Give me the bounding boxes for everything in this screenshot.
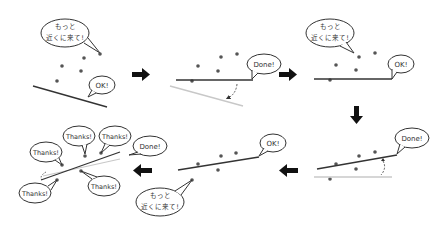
bubble-text-thanks: Thanks! xyxy=(101,133,128,141)
data-point xyxy=(219,154,223,158)
bubble-text-closer-1: もっと xyxy=(150,192,171,200)
panel-3: もっと 近くに来て! OK! xyxy=(306,19,414,82)
previous-line xyxy=(170,86,243,106)
bubble-text-done: Done! xyxy=(139,143,160,151)
previous-line xyxy=(43,159,120,176)
panel-4: Done! xyxy=(314,128,429,181)
data-point xyxy=(196,64,200,68)
diagram-canvas: もっと 近くに来て! OK! Done! もっと xyxy=(0,0,442,226)
data-point xyxy=(196,162,200,166)
arrow-left-icon xyxy=(133,164,152,177)
bubble-text-thanks: Thanks! xyxy=(65,133,92,141)
bubble-text-ok: OK! xyxy=(96,82,109,90)
bubble-text-ok: OK! xyxy=(267,140,280,148)
data-point xyxy=(82,56,86,60)
bubble-text-closer-2: 近くに来て! xyxy=(46,33,84,42)
arrow-down-icon xyxy=(350,106,363,124)
data-point xyxy=(55,79,59,83)
data-point xyxy=(357,154,361,158)
bubble-text-closer-2: 近くに来て! xyxy=(141,202,179,211)
data-point xyxy=(354,68,358,72)
arrow-right-icon xyxy=(279,68,297,81)
arrow-left-icon xyxy=(279,164,298,177)
data-point xyxy=(216,69,220,73)
arrow-right-icon xyxy=(132,68,150,81)
data-point xyxy=(354,167,358,171)
bubble-text-thanks: Thanks! xyxy=(32,149,59,157)
bubble-text-closer-1: もっと xyxy=(55,23,76,31)
data-point xyxy=(373,51,377,55)
data-point xyxy=(216,168,220,172)
bubble-text-ok: OK! xyxy=(395,61,408,69)
rotation-arrow-icon xyxy=(381,161,385,175)
data-point xyxy=(235,52,239,56)
data-point xyxy=(234,151,238,155)
bubble-text-done: Done! xyxy=(253,61,274,69)
data-point xyxy=(219,55,223,59)
data-point xyxy=(328,177,332,181)
panel-2: Done! xyxy=(170,52,281,106)
data-point xyxy=(334,63,338,67)
fit-line xyxy=(317,155,397,169)
data-point xyxy=(357,55,361,59)
rotation-arrow-icon xyxy=(228,84,237,98)
bubble-text-closer-2: 近くに来て! xyxy=(311,33,349,42)
data-point xyxy=(98,52,102,56)
panel-1: もっと 近くに来て! OK! xyxy=(33,19,115,107)
bubble-text-closer-1: もっと xyxy=(320,23,341,31)
bubble-text-done: Done! xyxy=(401,135,422,143)
data-point xyxy=(60,64,64,68)
fit-line xyxy=(178,157,259,170)
bubble-text-thanks: Thanks! xyxy=(90,183,117,191)
data-point xyxy=(79,69,83,73)
data-point xyxy=(373,150,377,154)
bubble-text-thanks: Thanks! xyxy=(21,190,48,198)
